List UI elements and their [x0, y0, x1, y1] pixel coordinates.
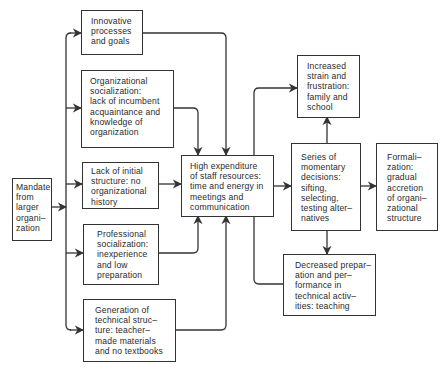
node-innovative: Innovative processes and goals — [81, 10, 143, 55]
node-formalization: Formali– zation: gradual accretion of or… — [376, 143, 438, 231]
edge-center-decreased — [254, 216, 283, 284]
node-lack-structure: Lack of initial structure: no organizati… — [82, 162, 159, 209]
node-series-decisions: Series of momentary decisions: sifting, … — [291, 143, 361, 231]
edge-generation-center — [175, 216, 226, 330]
node-generation: Generation of technical struc– ture: tea… — [83, 299, 176, 362]
node-org-socialization: Organizational socialization: lack of in… — [81, 70, 174, 148]
node-increased-strain: Increased strain and frustration: family… — [297, 55, 360, 118]
node-decreased-prep: Decreased prepar– ation and per– formanc… — [283, 254, 376, 316]
edge-profsoc-center — [158, 216, 198, 253]
node-prof-socialization: Professional socialization: inexperience… — [83, 224, 159, 285]
node-mandate: Mandate from larger organi– zation — [12, 178, 52, 241]
flowchart-canvas: Mandate from larger organi– zation Innov… — [0, 0, 447, 375]
node-high-expenditure: High expenditure of staff resources: tim… — [181, 155, 274, 217]
edge-orgsoc-center — [173, 108, 198, 155]
edge-spine — [66, 33, 71, 330]
